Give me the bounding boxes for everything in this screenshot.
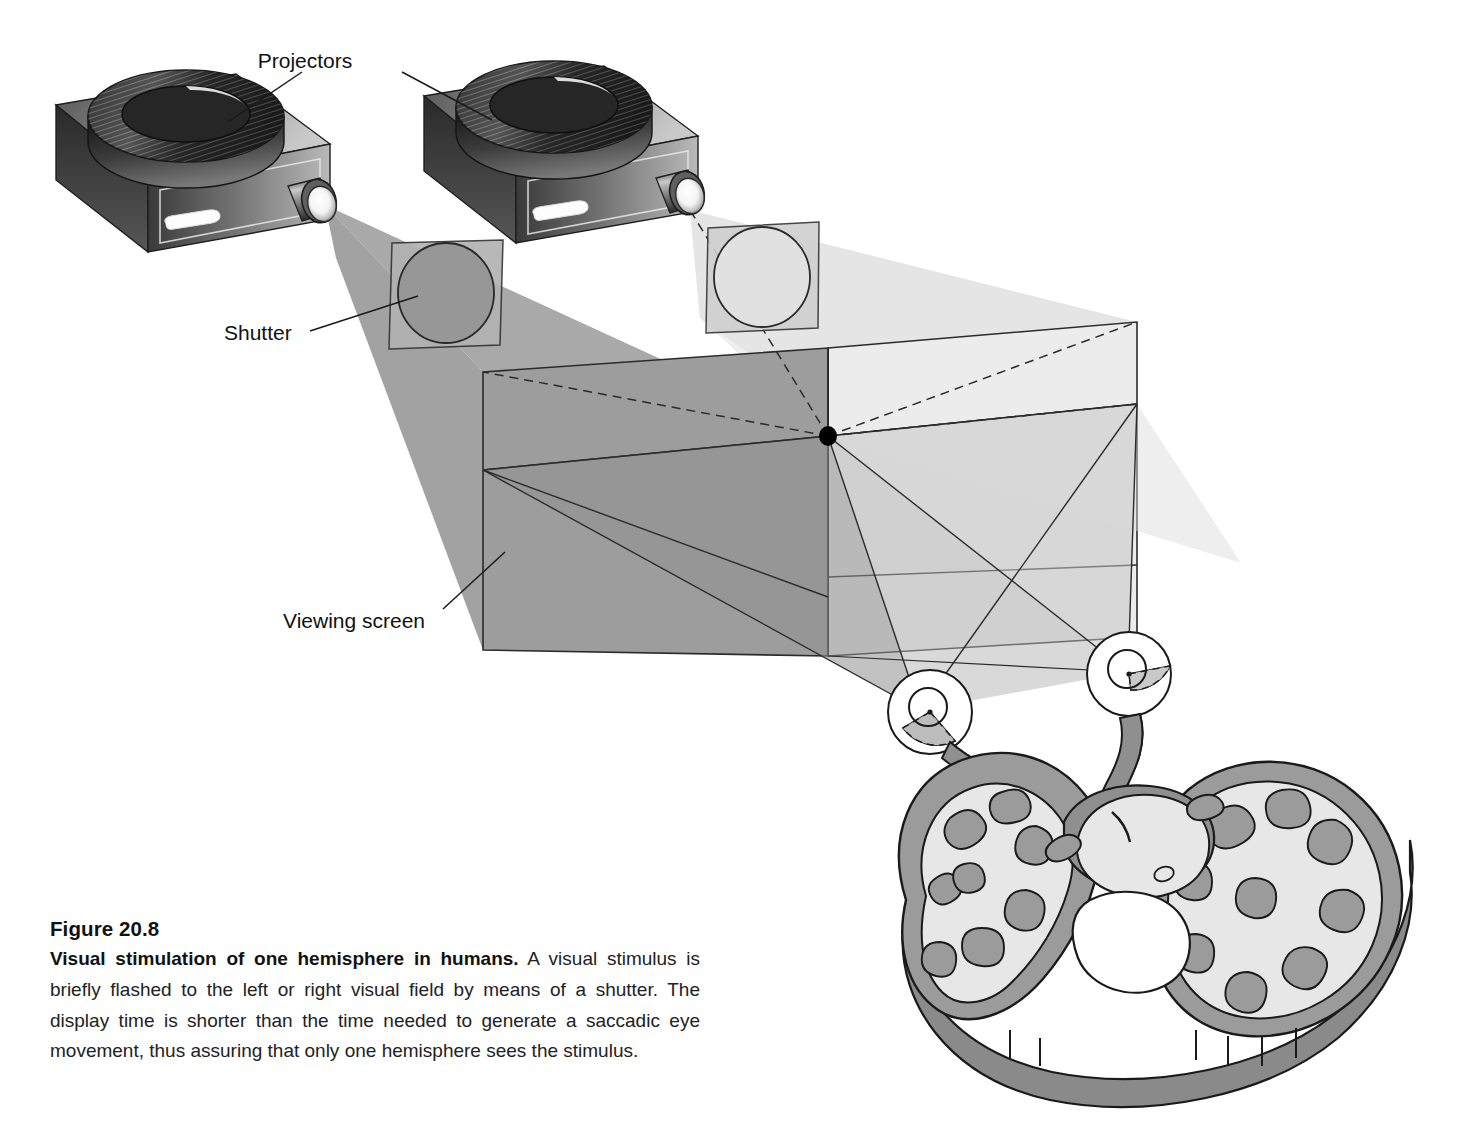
label-projectors: Projectors (258, 49, 353, 72)
label-shutter: Shutter (224, 321, 292, 344)
figure-container: Projectors Shutter Viewing screen Figure… (0, 0, 1474, 1148)
figure-number: Figure 20.8 (50, 916, 700, 941)
projector-left[interactable] (56, 70, 341, 252)
brain-horizontal-section (899, 753, 1413, 1107)
shutter-right-open[interactable] (706, 222, 819, 333)
caption-text: Visual stimulation of one hemisphere in … (50, 944, 700, 1067)
figure-caption: Figure 20.8 Visual stimulation of one he… (50, 916, 700, 1067)
caption-title: Visual stimulation of one hemisphere in … (50, 948, 519, 969)
fixation-point (819, 426, 837, 446)
label-viewing-screen: Viewing screen (283, 609, 425, 632)
eye-right (1087, 632, 1171, 716)
eye-left (888, 670, 972, 754)
shutter-left-closed[interactable] (389, 240, 503, 349)
projector-right[interactable] (424, 61, 709, 243)
